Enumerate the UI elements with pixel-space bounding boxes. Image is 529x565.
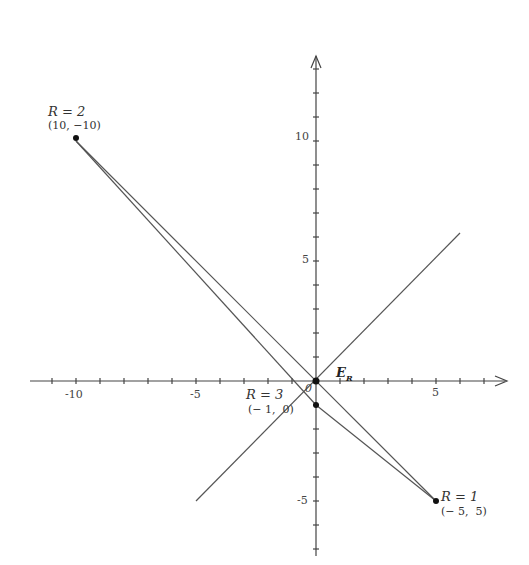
y-axis: [311, 56, 321, 556]
line-r2-r1: [76, 141, 436, 501]
line-r2-r3: [76, 141, 316, 405]
x-tick-label-m10: -10: [65, 389, 83, 400]
label-r3-name: R = 3: [246, 388, 283, 401]
label-r2-coord: (10, −10): [48, 120, 101, 131]
label-er: ER: [336, 366, 353, 382]
point-r3: [313, 402, 319, 408]
point-er: [313, 378, 320, 385]
y-axis-ticks: [313, 69, 319, 549]
label-r2-name: R = 2: [48, 105, 85, 118]
origin-label: 0: [305, 383, 312, 394]
x-tick-label-5: 5: [432, 387, 439, 398]
label-r1-name: R = 1: [441, 490, 478, 503]
y-tick-label-m5: -5: [297, 495, 308, 506]
diagram-lines: [76, 141, 460, 501]
line-diagonal: [196, 233, 460, 501]
point-r1: [433, 498, 439, 504]
label-er-main: E: [336, 365, 346, 380]
label-er-sub: R: [346, 373, 353, 383]
line-r3-r1: [316, 405, 436, 501]
coordinate-diagram: [0, 0, 529, 565]
label-r3-coord: (− 1, 0): [248, 404, 294, 415]
point-r2: [73, 135, 79, 141]
x-tick-label-m5: -5: [190, 389, 201, 400]
y-tick-label-5: 5: [302, 254, 309, 265]
y-tick-label-10: 10: [295, 131, 309, 142]
label-r1-coord: (− 5, 5): [441, 506, 487, 517]
